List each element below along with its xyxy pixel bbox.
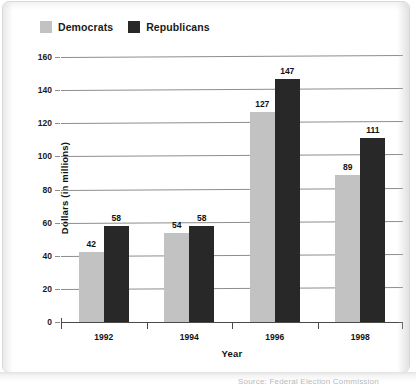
y-tick-mark <box>55 90 60 91</box>
bar-republicans-1992[interactable] <box>104 226 129 322</box>
bar-democrats-1998[interactable] <box>335 175 360 322</box>
bar-value-label: 54 <box>172 220 181 230</box>
bar-column: 58 <box>104 226 129 322</box>
bar-column: 42 <box>79 252 104 322</box>
x-tick-mark <box>318 322 319 329</box>
y-tick-label: 40 <box>43 251 52 261</box>
chart-caption: Source: Federal Election Commission <box>238 377 408 385</box>
chart-card: Democrats Republicans Dollars (in millio… <box>2 1 410 373</box>
bar-value-label: 89 <box>343 162 352 172</box>
bar-value-label: 42 <box>87 239 96 249</box>
plot-area: 020406080100120140160 425854581271478911… <box>61 57 403 322</box>
y-tick-mark <box>55 289 60 290</box>
y-tick-label: 100 <box>38 151 52 161</box>
bar-democrats-1992[interactable] <box>79 252 104 322</box>
bar-column: 58 <box>189 226 214 322</box>
bar-democrats-1994[interactable] <box>164 233 189 322</box>
x-tick-label-1996: 1996 <box>265 332 284 342</box>
x-tick-mark <box>232 322 233 329</box>
chart-plot-wrapper: Dollars (in millions) 020406080100120140… <box>3 2 410 373</box>
x-tick-mark <box>61 322 62 329</box>
bar-value-label: 58 <box>197 213 206 223</box>
bar-value-label: 127 <box>255 99 269 109</box>
x-axis-title: Year <box>61 348 403 359</box>
bar-group: 127147 <box>232 57 318 322</box>
bar-value-label: 111 <box>366 125 379 135</box>
y-tick-mark <box>55 57 60 58</box>
bar-column: 111 <box>360 138 385 322</box>
x-tick-label-1992: 1992 <box>94 332 113 342</box>
bar-group: 89111 <box>318 57 404 322</box>
y-tick-mark <box>55 322 60 323</box>
bar-value-label: 58 <box>112 213 121 223</box>
bar-column: 147 <box>275 79 300 322</box>
bar-republicans-1994[interactable] <box>189 226 214 322</box>
bar-column: 54 <box>164 233 189 322</box>
y-tick-mark <box>55 190 60 191</box>
bar-republicans-1998[interactable] <box>360 138 385 322</box>
y-tick-label: 80 <box>43 185 52 195</box>
bar-democrats-1996[interactable] <box>250 112 275 322</box>
bar-republicans-1996[interactable] <box>275 79 300 322</box>
bar-column: 89 <box>335 175 360 322</box>
y-tick-label: 140 <box>38 85 52 95</box>
y-tick-label: 20 <box>43 284 52 294</box>
x-tick-label-1994: 1994 <box>180 332 199 342</box>
y-tick-mark <box>55 123 60 124</box>
y-tick-mark <box>55 256 60 257</box>
bar-group: 5458 <box>147 57 233 322</box>
bar-value-label: 147 <box>280 66 294 76</box>
y-tick-mark <box>55 156 60 157</box>
y-tick-label: 120 <box>38 118 52 128</box>
y-tick-label: 0 <box>47 317 52 327</box>
bar-group: 4258 <box>61 57 147 322</box>
y-tick-label: 160 <box>38 52 52 62</box>
y-tick-label: 60 <box>43 218 52 228</box>
x-tick-label-1998: 1998 <box>351 332 370 342</box>
y-tick-mark <box>55 223 60 224</box>
bar-column: 127 <box>250 112 275 322</box>
x-tick-mark <box>402 322 403 329</box>
x-tick-mark <box>147 322 148 329</box>
